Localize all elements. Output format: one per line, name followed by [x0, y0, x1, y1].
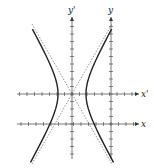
x-prime-axis: x' [17, 89, 149, 99]
x-prime-axis-label: x' [141, 89, 149, 99]
x-axis-label: x [141, 119, 146, 129]
hyperbola-diagram: x' x y' y [0, 0, 154, 168]
y-prime-axis: y' [67, 5, 76, 159]
diagram-canvas: x' x y' y [0, 0, 154, 168]
x-axis: x [17, 119, 146, 129]
y-prime-axis-label: y' [67, 5, 76, 15]
y-axis-label: y [107, 5, 114, 15]
y-axis: y [107, 5, 114, 159]
